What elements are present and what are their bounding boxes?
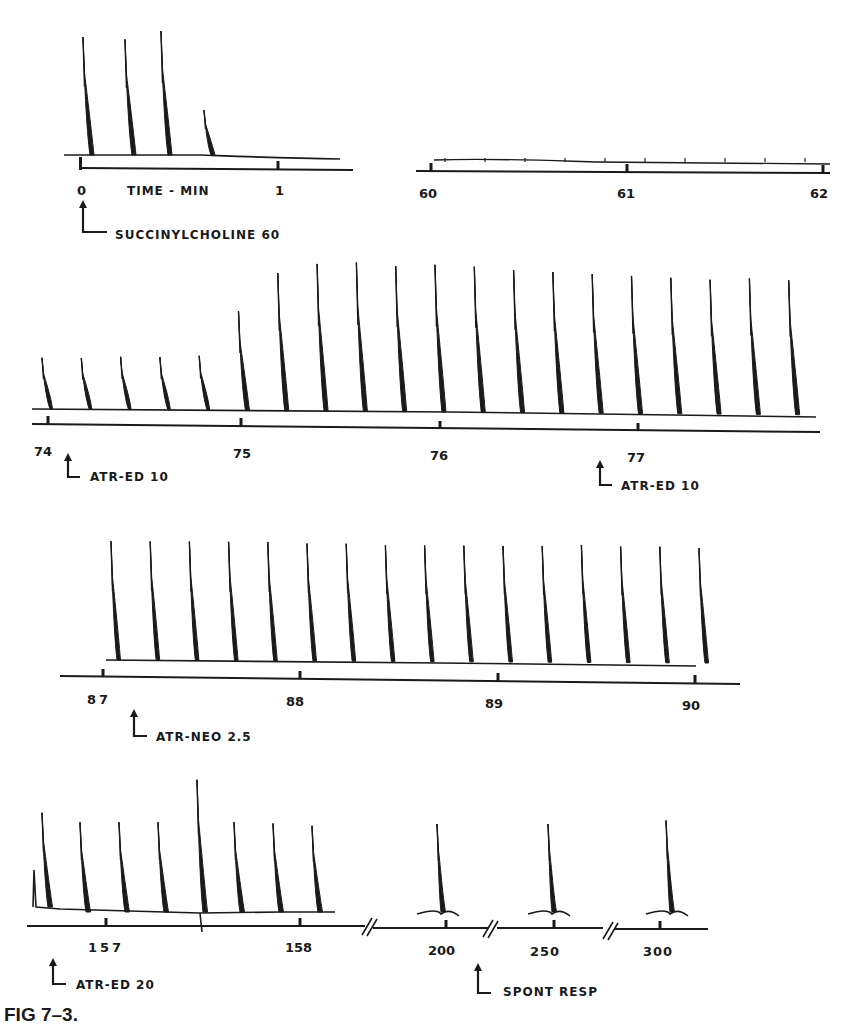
baseline-foot [417,911,459,916]
axis-label: TIME - MIN [127,184,210,198]
annotation-bracket [68,459,80,477]
tick-label: 77 [627,450,645,465]
annotation-succinylcholine: SUCCINYLCHOLINE 60 [115,228,280,242]
tick-label: 61 [617,186,635,201]
axis-tick [445,920,448,928]
tick-label: 75 [233,446,251,461]
twitch-spike [199,356,210,410]
twitch-spike [749,278,760,414]
twitch-spike [278,273,289,411]
twitch-spike [42,813,53,907]
annotation-bracket [53,964,66,984]
axis-tick [439,421,442,429]
twitch-tip [514,270,516,330]
figure-caption: FIG 7–3. [4,1004,78,1026]
tick-label: 0 [77,183,86,198]
tick-label: 300 [643,944,673,959]
tick-label: 88 [286,694,304,709]
twitch-spike [121,357,132,410]
twitch-spike [317,264,328,411]
twitch-tip [553,272,555,331]
twitch-tip [42,358,44,380]
time-axis [79,168,353,170]
twitch-tip [158,822,160,860]
baseline-trace [33,870,335,913]
annotation-bracket [478,969,491,993]
twitch-tip [160,357,162,379]
twitch-tip [229,542,231,592]
baseline-trace [64,155,340,159]
annotation-bracket [83,206,107,232]
twitch-spike [474,267,485,413]
axis-tick [694,675,697,683]
tick-label: 200 [428,943,455,958]
twitch-spike [346,544,356,661]
tick-label: 62 [810,186,828,201]
twitch-spike [503,546,513,662]
twitch-tip [699,548,701,596]
twitch-spike [312,826,323,912]
axis-tick [240,418,243,426]
twitch-spike [83,37,94,155]
tick-label: 74 [34,444,52,459]
annotation-atr-neo: ATR-NEO 2.5 [156,730,252,744]
axis-break-mark [488,921,498,938]
twitch-tip [189,542,191,592]
drug-annotations: SUCCINYLCHOLINE 60ATR-ED 10ATR-ED 10ATR-… [49,200,700,999]
twitch-tip [268,542,270,592]
twitch-spike [125,39,136,155]
twitch-tip [437,824,439,861]
annotation-atr-ed-20: ATR-ED 20 [76,978,155,992]
twitch-tip [121,357,123,379]
annotation-atr-ed-10-second: ATR-ED 10 [621,479,700,493]
axis-break-mark [603,922,613,939]
twitch-tip [396,266,398,327]
axis-marker [200,913,202,932]
twitch-spike [81,358,92,409]
twitch-spike [592,274,603,413]
twitch-spike [671,278,682,414]
twitch-spike [158,822,169,912]
twitch-tip [632,276,634,334]
tick-label: 87 [87,692,111,707]
axis-tick [299,918,302,926]
twitch-tip [660,547,662,596]
twitch-tip [789,280,791,336]
twitch-spike [632,276,643,414]
twitch-tip [464,546,466,595]
twitch-tip [666,821,668,859]
twitch-tip [548,824,550,861]
time-axis [60,676,740,684]
time-axis [32,424,820,432]
kymograph-figure: 01TIME - MIN6061627475767787888990157158… [0,0,854,1000]
twitch-spike [553,272,564,413]
axis-tick [47,416,50,424]
twitch-spike [204,110,215,155]
baseline-trace [434,159,830,164]
twitch-spike [542,546,552,662]
twitch-tip [749,278,751,335]
twitch-spike [161,31,172,155]
twitch-spike [581,545,591,662]
tick-label: 76 [430,448,448,463]
tick-label: 1 [275,183,284,198]
tick-label: 60 [419,186,437,201]
twitch-spike [396,266,407,412]
time-axis [416,171,830,173]
twitch-spike [229,542,239,661]
annotation-atr-ed-10: ATR-ED 10 [90,470,169,484]
twitch-spike [80,822,91,912]
twitch-spike [189,542,199,661]
twitch-spike [150,541,160,660]
axis-tick [659,921,662,929]
twitch-tip [385,545,387,594]
tick-label: 250 [530,944,560,959]
twitch-tip [278,273,280,331]
twitch-spike [514,270,525,412]
baseline-foot [646,911,688,916]
axis-tick [102,669,105,677]
axis-tick [105,918,108,926]
twitch-spike [307,544,317,661]
twitch-tip [111,541,113,591]
axis-tick [277,161,280,169]
